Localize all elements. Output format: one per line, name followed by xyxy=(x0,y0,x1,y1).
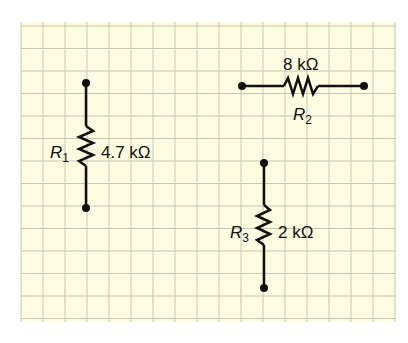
circuit-svg: R1 4.7 kΩ 8 kΩ R2 R3 2 kΩ xyxy=(0,0,408,343)
r2-value: 8 kΩ xyxy=(283,55,318,74)
terminal-r2-right xyxy=(360,82,368,90)
r1-value: 4.7 kΩ xyxy=(101,143,151,162)
terminal-r3-top xyxy=(260,159,268,167)
terminal-r1-top xyxy=(82,79,90,87)
terminal-r2-left xyxy=(238,82,246,90)
r3-value: 2 kΩ xyxy=(278,223,313,242)
grid-paper xyxy=(21,22,396,322)
terminal-r1-bottom xyxy=(82,204,90,212)
terminal-r3-bottom xyxy=(260,284,268,292)
circuit-diagram: R1 4.7 kΩ 8 kΩ R2 R3 2 kΩ xyxy=(0,0,408,343)
